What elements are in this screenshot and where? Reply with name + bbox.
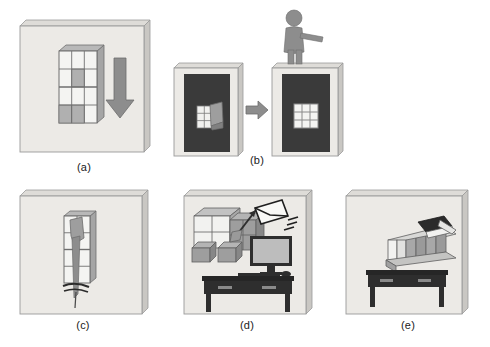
board-top-edge: [20, 20, 150, 26]
shelf-grid-a: [59, 45, 104, 123]
board-right: [272, 63, 343, 156]
panel-a-artwork: [14, 14, 154, 159]
panel-d-artwork: [178, 186, 318, 318]
right-arrow-icon: [246, 101, 268, 119]
panel-d: (d): [178, 186, 318, 318]
board-top-edge: [346, 190, 468, 196]
panel-c: (c): [14, 186, 154, 318]
board-right-edge: [142, 190, 148, 314]
panel-c-caption: (c): [53, 319, 113, 331]
board-right-edge: [144, 20, 150, 152]
panel-d-caption: (d): [217, 319, 277, 331]
figure-container: (a): [0, 0, 490, 347]
panel-a: (a): [14, 14, 154, 159]
window-left-messy: [197, 102, 223, 130]
board-right-edge: [462, 190, 468, 314]
window-right-clean: [294, 104, 318, 128]
panel-e: (e): [340, 186, 480, 318]
panel-c-artwork: [14, 186, 154, 318]
panel-b-artwork: [170, 6, 350, 161]
panel-b-caption: (b): [227, 154, 287, 166]
panel-e-caption: (e): [378, 319, 438, 331]
person-figure-icon: [284, 10, 323, 64]
panel-a-caption: (a): [54, 161, 114, 173]
board-right-edge: [306, 190, 312, 314]
panel-b: (b): [170, 6, 350, 161]
board-top-edge: [184, 190, 312, 196]
board-left: [174, 63, 243, 156]
board-top-edge: [20, 190, 148, 196]
panel-e-artwork: [340, 186, 480, 318]
